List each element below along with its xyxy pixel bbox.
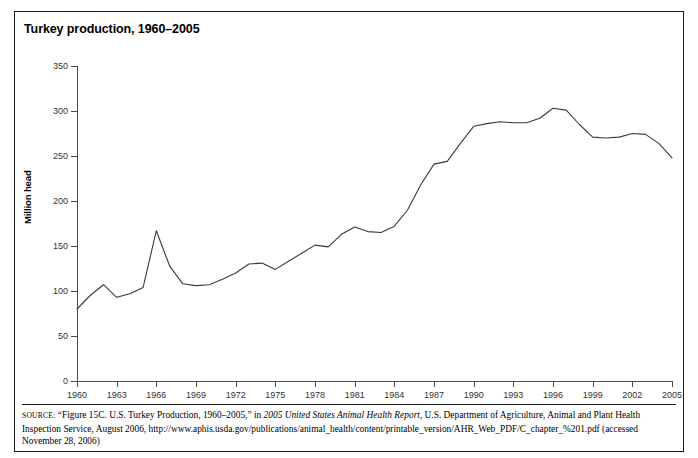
x-tick xyxy=(672,381,673,387)
x-tick xyxy=(315,381,316,387)
series-line xyxy=(77,108,672,309)
x-tick-label: 1999 xyxy=(583,390,603,400)
y-axis-label: Million head xyxy=(22,170,33,224)
x-tick xyxy=(156,381,157,387)
x-tick-label: 1978 xyxy=(305,390,325,400)
source-note: SOURCE: “Figure 15C. U.S. Turkey Product… xyxy=(22,409,678,448)
figure-page: FIGURE 4.10 Turkey production, 1960–2005… xyxy=(0,0,698,458)
x-tick xyxy=(394,381,395,387)
y-tick-label: 150 xyxy=(53,241,68,251)
x-tick-label: 1981 xyxy=(345,390,365,400)
y-tick-label: 250 xyxy=(53,151,68,161)
x-tick-label: 2005 xyxy=(662,390,682,400)
y-tick-label: 100 xyxy=(53,286,68,296)
plot-area: 050100150200250300350 196019631966196919… xyxy=(77,66,672,381)
y-tick-label: 300 xyxy=(53,106,68,116)
x-tick-label: 1960 xyxy=(67,390,87,400)
x-tick xyxy=(553,381,554,387)
x-tick xyxy=(196,381,197,387)
source-divider xyxy=(22,404,676,405)
x-tick xyxy=(593,381,594,387)
x-tick-label: 1987 xyxy=(424,390,444,400)
y-tick-label: 350 xyxy=(53,61,68,71)
x-tick xyxy=(632,381,633,387)
x-tick xyxy=(434,381,435,387)
x-tick-label: 1975 xyxy=(265,390,285,400)
x-tick xyxy=(355,381,356,387)
y-tick-label: 50 xyxy=(58,331,68,341)
x-tick-label: 1963 xyxy=(107,390,127,400)
series-turkey-production xyxy=(77,66,672,381)
x-tick-label: 1984 xyxy=(384,390,404,400)
x-tick xyxy=(474,381,475,387)
x-tick-label: 1990 xyxy=(464,390,484,400)
y-tick-label: 200 xyxy=(53,196,68,206)
x-tick-label: 1969 xyxy=(186,390,206,400)
x-tick xyxy=(236,381,237,387)
x-tick-label: 1996 xyxy=(543,390,563,400)
source-report-title: 2005 United States Animal Health Report xyxy=(264,410,420,420)
source-label: SOURCE: xyxy=(22,411,55,420)
x-tick-label: 1972 xyxy=(226,390,246,400)
source-text-before: “Figure 15C. U.S. Turkey Production, 196… xyxy=(55,410,263,420)
x-tick-label: 1993 xyxy=(503,390,523,400)
x-tick xyxy=(77,381,78,387)
x-axis-line xyxy=(77,381,672,382)
x-tick xyxy=(275,381,276,387)
chart-title: Turkey production, 1960–2005 xyxy=(24,22,200,36)
x-tick-label: 2002 xyxy=(622,390,642,400)
figure-caption: FIGURE 4.10 xyxy=(14,0,72,10)
y-tick-label: 0 xyxy=(63,376,68,386)
x-tick xyxy=(117,381,118,387)
x-tick-label: 1966 xyxy=(146,390,166,400)
x-tick xyxy=(513,381,514,387)
